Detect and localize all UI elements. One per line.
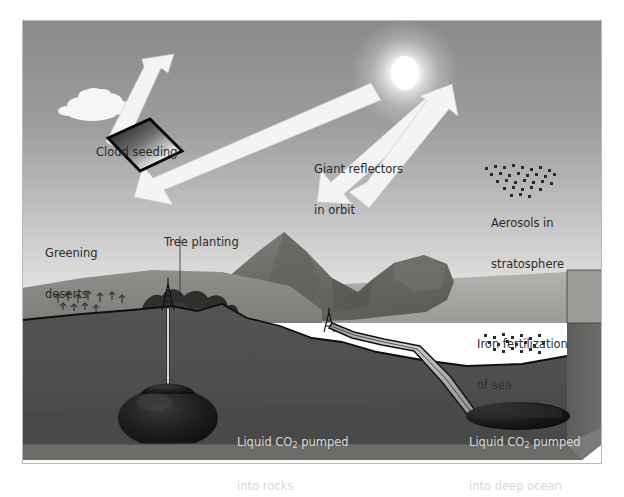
label-cloud-seeding-text: Cloud seeding [96, 145, 178, 159]
label-tree-planting-text: Tree planting [164, 235, 239, 249]
label-giant-reflectors: Giant reflectors in orbit [314, 136, 403, 244]
label-giant-reflectors-line2: in orbit [314, 204, 403, 218]
label-co2-pumped-into-deep-ocean: Liquid CO2 pumped into deep ocean [469, 409, 581, 497]
label-iron-fertilization-line1: Iron fertilization [477, 338, 568, 352]
label-co2-ocean-line1: Liquid CO2 pumped [469, 436, 581, 453]
label-co2-ocean-line1-b: pumped [530, 435, 581, 449]
label-giant-reflectors-line1: Giant reflectors [314, 163, 403, 177]
label-co2-rocks-line2: into rocks [237, 480, 349, 494]
label-aerosols-stratosphere: Aerosols in stratosphere [491, 190, 564, 298]
label-co2-ocean-line1-a: Liquid CO [469, 435, 524, 449]
label-greening-deserts-line2: deserts [45, 288, 98, 302]
label-aerosols-line2: stratosphere [491, 258, 564, 272]
vertical-well-bore [167, 308, 170, 390]
label-greening-deserts-line1: Greening [45, 247, 98, 261]
label-co2-ocean-line2: into deep ocean [469, 480, 581, 494]
label-cloud-seeding: Cloud seeding [74, 132, 178, 173]
label-iron-fertilization-line2: of sea [477, 379, 568, 393]
geoengineering-figure: Cloud seeding Giant reflectors in orbit … [22, 20, 602, 464]
label-tree-planting: Tree planting [142, 222, 239, 263]
label-co2-rocks-line1-b: pumped [298, 435, 349, 449]
label-greening-deserts: Greening deserts [45, 220, 98, 328]
label-co2-rocks-line1-a: Liquid CO [237, 435, 292, 449]
label-aerosols-line1: Aerosols in [491, 217, 564, 231]
label-co2-rocks-line1: Liquid CO2 pumped [237, 436, 349, 453]
scan-top-artifact: a b c d e f [0, 0, 624, 9]
label-co2-pumped-into-rocks: Liquid CO2 pumped into rocks [237, 409, 349, 497]
scan-artifact-text: a b c d e f [0, 0, 55, 2]
label-iron-fertilization: Iron fertilization of sea [477, 311, 568, 419]
